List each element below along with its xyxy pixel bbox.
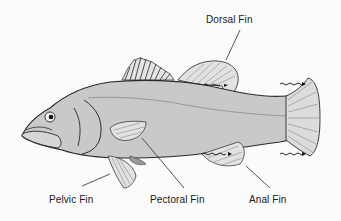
label-pectoral-fin: Pectoral Fin <box>150 194 205 205</box>
leader-dorsal <box>226 30 240 60</box>
fish-eye <box>45 112 55 122</box>
leader-pelvic <box>82 174 110 186</box>
caudal-fin <box>280 78 320 156</box>
spiny-dorsal-fin <box>122 57 174 80</box>
fish-illustration <box>0 0 341 221</box>
fish-body <box>22 80 290 158</box>
label-pelvic-fin: Pelvic Fin <box>49 194 93 205</box>
label-anal-fin: Anal Fin <box>249 194 287 205</box>
label-dorsal-fin: Dorsal Fin <box>206 14 253 25</box>
pelvic-fin <box>108 156 146 188</box>
fish-diagram: Dorsal Fin Pelvic Fin Pectoral Fin Anal … <box>0 0 341 221</box>
leader-anal <box>246 166 270 188</box>
